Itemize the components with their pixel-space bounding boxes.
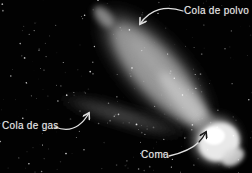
comet-photo-layer — [0, 0, 252, 173]
comet-photo — [52, 0, 248, 170]
gas-tail-arrow-icon — [55, 113, 89, 129]
coma-core — [203, 127, 225, 145]
coma-label: Coma — [141, 150, 169, 160]
comet-diagram: Cola de polvo Cola de gas Coma — [0, 0, 252, 173]
gas-tail-label: Cola de gas — [2, 121, 59, 131]
dust-tail-arrow-icon — [140, 8, 183, 24]
dust-tail-label: Cola de polvo — [184, 6, 249, 16]
